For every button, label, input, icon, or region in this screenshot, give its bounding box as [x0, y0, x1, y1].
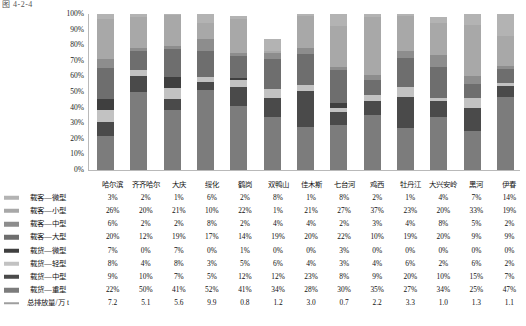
y-axis-labels: 100%90%80%70%60%50%40%30%20%10%0%	[56, 14, 86, 170]
legend-swatch-icon	[4, 248, 19, 253]
table-cell-value: 0%	[129, 244, 162, 257]
bar-segment	[397, 97, 414, 128]
table-row: 载货—微型7%0%7%0%1%0%0%3%0%0%0%0%0%	[0, 244, 526, 257]
stacked-bar[interactable]	[197, 14, 214, 170]
bar-segment	[497, 86, 514, 97]
bar-segment	[464, 131, 481, 170]
bar-slot	[256, 14, 289, 170]
table-cell-value: 23%	[295, 270, 328, 283]
table-cell-emission: 9.9	[195, 297, 228, 310]
table-cell-value: 5%	[460, 218, 493, 231]
table-cell-emission: 1.3	[460, 297, 493, 310]
bar-segment	[430, 101, 447, 117]
bar-segment	[297, 91, 314, 127]
bar-segment	[330, 112, 347, 124]
stacked-bar[interactable]	[464, 14, 481, 170]
stacked-bar[interactable]	[297, 14, 314, 170]
stacked-bar[interactable]	[497, 14, 514, 170]
table-cell-value: 6%	[195, 191, 228, 204]
column-header-city: 双鸭山	[261, 178, 294, 191]
table-header-row: 哈尔滨齐齐哈尔大庆绥化鹤岗双鸭山佳木斯七台河鸡西牡丹江大兴安岭黑河伊春	[0, 178, 526, 191]
table-cell-value: 14%	[493, 191, 526, 204]
stacked-bar[interactable]	[97, 14, 114, 170]
legend-row-label-total: 总排放量/万 t	[0, 297, 96, 310]
bar-slot	[89, 14, 122, 170]
stacked-bar[interactable]	[264, 14, 281, 170]
bar-segment	[97, 19, 114, 59]
bar-segment	[364, 17, 381, 75]
bar-segment	[397, 16, 414, 52]
stacked-bar[interactable]	[430, 14, 447, 170]
bar-slot	[222, 14, 255, 170]
bar-slot	[455, 14, 488, 170]
stacked-bar[interactable]	[330, 14, 347, 170]
table-cell-value: 41%	[162, 284, 195, 297]
table-cell-value: 22%	[228, 204, 261, 217]
table-cell-value: 0%	[460, 244, 493, 257]
table-cell-value: 8%	[328, 191, 361, 204]
bar-segment	[464, 84, 481, 98]
y-axis-tick: 20%	[70, 135, 84, 143]
table-cell-value: 6%	[261, 257, 294, 270]
stacked-bars	[89, 14, 522, 170]
bar-segment	[430, 117, 447, 170]
table-cell-value: 4%	[394, 218, 427, 231]
table-cell-value: 35%	[361, 284, 394, 297]
legend-label-text: 载客—微型	[30, 193, 66, 202]
table-cell-value: 8%	[261, 191, 294, 204]
y-axis-tick: 40%	[70, 104, 84, 112]
bar-segment	[464, 108, 481, 131]
table-cell-value: 7%	[162, 270, 195, 283]
legend-row-label: 载货—轻型	[0, 257, 96, 270]
table-cell-value: 20%	[394, 270, 427, 283]
bar-segment	[97, 68, 114, 99]
table-cell-value: 4%	[427, 191, 460, 204]
table-cell-value: 25%	[460, 284, 493, 297]
table-cell-emission: 0.8	[228, 297, 261, 310]
bar-segment	[97, 110, 114, 122]
table-cell-value: 6%	[394, 257, 427, 270]
legend-label-text-total: 总排放量/万 t	[27, 298, 70, 307]
stacked-bar[interactable]	[230, 14, 247, 170]
bar-segment	[464, 98, 481, 107]
legend-row-label: 载货—微型	[0, 244, 96, 257]
legend-label-text: 载客—小型	[30, 206, 66, 215]
table-cell-value: 4%	[361, 257, 394, 270]
column-header-city: 齐齐哈尔	[129, 178, 162, 191]
column-header-city: 绥化	[195, 178, 228, 191]
table-cell-value: 6%	[460, 257, 493, 270]
stacked-bar[interactable]	[130, 14, 147, 170]
legend-row-label: 载客—中型	[0, 218, 96, 231]
column-header-city: 哈尔滨	[96, 178, 129, 191]
legend-row-label: 载货—中型	[0, 270, 96, 283]
table-cell-value: 2%	[361, 191, 394, 204]
column-header-city: 鹤岗	[228, 178, 261, 191]
table-cell-emission: 5.6	[162, 297, 195, 310]
table-cell-value: 15%	[460, 270, 493, 283]
stacked-bar[interactable]	[164, 14, 181, 170]
table-cell-value: 4%	[295, 257, 328, 270]
table-cell-value: 20%	[427, 231, 460, 244]
legend-row-label: 载客—微型	[0, 191, 96, 204]
stacked-bar[interactable]	[364, 14, 381, 170]
bar-segment	[130, 92, 147, 170]
stacked-bar[interactable]	[397, 14, 414, 170]
table-cell-value: 1%	[162, 191, 195, 204]
table-cell-value: 47%	[493, 284, 526, 297]
legend-row-label: 载货—重型	[0, 284, 96, 297]
bar-segment	[164, 110, 181, 170]
bar-segment	[497, 97, 514, 170]
table-cell-value: 20%	[295, 231, 328, 244]
bar-segment	[130, 17, 147, 48]
legend-line-icon	[4, 303, 19, 305]
bar-segment	[97, 122, 114, 136]
table-cell-value: 0%	[493, 244, 526, 257]
table-cell-value: 10%	[195, 204, 228, 217]
bar-slot	[189, 14, 222, 170]
bar-slot	[322, 14, 355, 170]
bar-segment	[264, 117, 281, 170]
bar-slot	[389, 14, 422, 170]
table-cell-value: 34%	[261, 284, 294, 297]
bar-segment	[230, 19, 247, 53]
y-axis-tick: 0%	[74, 166, 84, 174]
